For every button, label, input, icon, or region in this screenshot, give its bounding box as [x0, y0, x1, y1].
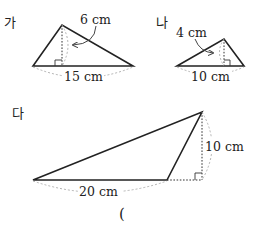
height-dimension-arc-na — [220, 39, 225, 66]
height-label-ga: 6 cm — [80, 12, 111, 27]
base-label-da: 20 cm — [79, 184, 118, 199]
height-label-na: 4 cm — [176, 25, 207, 40]
base-label-na: 10 cm — [191, 69, 230, 84]
answer-blank-paren: ( — [119, 205, 125, 223]
triangle-ga — [33, 25, 133, 66]
triangle-da — [33, 112, 202, 180]
right-angle-mark-da — [195, 173, 202, 180]
figure-label-na: 나 — [156, 15, 168, 30]
figure-label-da: 다 — [12, 106, 24, 121]
figure-da: 다 10 cm 20 cm — [12, 106, 252, 199]
figure-label-ga: 가 — [4, 15, 16, 30]
right-angle-mark-na — [224, 60, 230, 66]
base-label-ga: 15 cm — [64, 69, 103, 84]
height-label-da: 10 cm — [205, 139, 244, 154]
right-angle-mark-ga — [55, 60, 62, 66]
triangles-diagram: 가 6 cm 15 cm 나 4 cm 10 cm 다 10 cm 20 c — [0, 0, 264, 228]
height-dimension-arc-ga — [62, 25, 68, 66]
figure-na: 나 4 cm 10 cm — [156, 15, 244, 84]
figure-ga: 가 6 cm 15 cm — [4, 12, 133, 84]
